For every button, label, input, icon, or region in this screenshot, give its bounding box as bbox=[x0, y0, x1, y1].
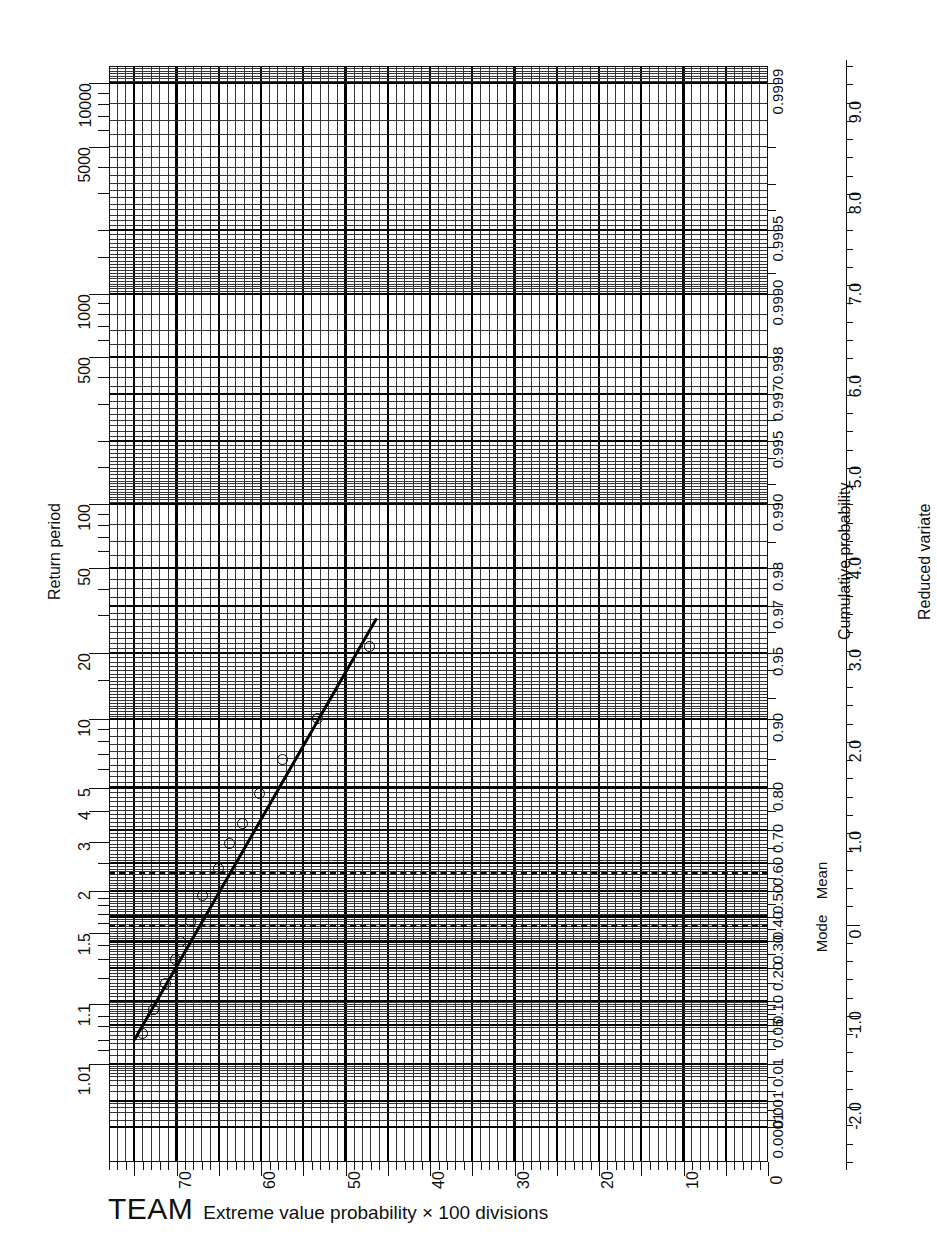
return-period-minor-tick bbox=[98, 377, 109, 378]
probability-minor-tick bbox=[768, 484, 776, 485]
caption: TEAM Extreme value probability × 100 div… bbox=[108, 1192, 548, 1226]
data-point bbox=[224, 838, 235, 849]
x-axis-tick bbox=[624, 1162, 625, 1170]
x-axis-tick bbox=[675, 1162, 676, 1170]
data-point bbox=[197, 890, 208, 901]
return-period-tick-label: 100 bbox=[76, 504, 94, 531]
probability-tick-label: 0.995 bbox=[769, 431, 786, 469]
probability-minor-tick bbox=[768, 210, 776, 211]
x-axis-tick bbox=[506, 1162, 507, 1170]
data-point bbox=[312, 713, 323, 724]
reduced-variate-minor-tick bbox=[846, 705, 853, 706]
reduced-variate-tick-label: 3.0 bbox=[847, 648, 865, 670]
data-point bbox=[175, 936, 186, 947]
x-axis-tick bbox=[658, 1162, 659, 1170]
data-point bbox=[277, 754, 288, 765]
reduced-variate-minor-tick bbox=[846, 450, 853, 451]
reduced-variate-minor-tick bbox=[846, 523, 853, 524]
x-axis-tick bbox=[565, 1162, 566, 1170]
return-period-minor-tick bbox=[98, 116, 109, 117]
x-axis-tick bbox=[210, 1162, 211, 1170]
reduced-variate-minor-tick bbox=[846, 724, 853, 725]
return-period-tick-label: 500 bbox=[76, 357, 94, 384]
x-axis-tick bbox=[405, 1162, 406, 1170]
reduced-variate-axis: -2.0-1.001.02.03.04.05.06.07.08.09.0 bbox=[846, 60, 886, 1170]
reduced-variate-minor-tick bbox=[846, 778, 853, 779]
x-axis-tick bbox=[109, 1162, 110, 1170]
return-period-minor-tick bbox=[98, 230, 109, 231]
reduced-variate-tick-label: 6.0 bbox=[847, 374, 865, 396]
reduced-variate-minor-tick bbox=[846, 358, 853, 359]
x-axis-tick bbox=[582, 1162, 583, 1170]
probability-tick-label: 0.01 bbox=[769, 1058, 786, 1087]
return-period-minor-tick bbox=[98, 93, 109, 94]
x-axis-tick bbox=[650, 1162, 651, 1170]
x-axis-tick bbox=[557, 1162, 558, 1176]
x-axis-tick bbox=[219, 1162, 220, 1176]
reduced-variate-minor-tick bbox=[846, 888, 853, 889]
x-axis-tick bbox=[455, 1162, 456, 1170]
x-axis-tick bbox=[574, 1162, 575, 1170]
probability-minor-tick bbox=[768, 698, 776, 699]
x-axis-tick bbox=[270, 1162, 271, 1170]
reduced-variate-tick-label: 7.0 bbox=[847, 283, 865, 305]
probability-tick-label: 0.9999 bbox=[769, 69, 786, 115]
x-axis-tick-label: 0 bbox=[768, 1176, 786, 1185]
x-axis-tick-label: 60 bbox=[261, 1171, 279, 1189]
return-period-minor-tick bbox=[98, 1016, 109, 1017]
return-period-minor-tick bbox=[98, 193, 109, 194]
return-period-minor-tick bbox=[98, 754, 109, 755]
return-period-minor-tick bbox=[98, 905, 109, 906]
reduced-variate-minor-tick bbox=[846, 176, 853, 177]
reduced-variate-minor-tick bbox=[846, 1071, 853, 1072]
data-point bbox=[137, 1028, 148, 1039]
return-period-minor-tick bbox=[98, 326, 109, 327]
x-axis-tick bbox=[591, 1162, 592, 1170]
reduced-variate-tick bbox=[846, 925, 860, 926]
return-period-axis-title: Return period bbox=[46, 503, 64, 600]
x-axis-tick bbox=[295, 1162, 296, 1170]
x-axis-tick bbox=[396, 1162, 397, 1170]
reduced-variate-minor-tick bbox=[846, 614, 853, 615]
x-axis-tick bbox=[768, 1162, 769, 1176]
x-axis-tick bbox=[312, 1162, 313, 1170]
reduced-variate-minor-tick bbox=[846, 340, 853, 341]
return-period-minor-tick bbox=[98, 404, 109, 405]
return-period-tick-label: 1.01 bbox=[76, 1064, 94, 1095]
reduced-variate-minor-tick bbox=[846, 961, 853, 962]
probability-tick-label: 0.80 bbox=[769, 781, 786, 810]
return-period-tick-label: 10 bbox=[76, 719, 94, 737]
return-period-tick-label: 5000 bbox=[76, 147, 94, 183]
x-axis-tick bbox=[447, 1162, 448, 1170]
probability-tick-label: 0.20 bbox=[769, 962, 786, 991]
x-axis-tick bbox=[743, 1162, 744, 1170]
x-axis-tick bbox=[692, 1162, 693, 1170]
x-axis-tick bbox=[160, 1162, 161, 1170]
x-axis-tick bbox=[413, 1162, 414, 1170]
x-axis-tick bbox=[143, 1162, 144, 1170]
x-axis-tick bbox=[709, 1162, 710, 1170]
x-axis-tick bbox=[253, 1162, 254, 1170]
cumulative-probability-axis: 0.00010.0010.010.050.100.200.300.400.500… bbox=[768, 66, 830, 1162]
return-period-axis: 1.011.11.523451020501005001000500010000 bbox=[0, 66, 109, 1162]
reduced-variate-tick-label: 9.0 bbox=[847, 100, 865, 122]
return-period-minor-tick bbox=[98, 863, 109, 864]
x-axis-tick bbox=[117, 1162, 118, 1170]
x-axis-tick bbox=[607, 1162, 608, 1170]
x-axis-tick-label: 50 bbox=[346, 1171, 364, 1189]
x-axis-tick bbox=[760, 1162, 761, 1170]
return-period-minor-tick bbox=[98, 551, 109, 552]
data-point bbox=[254, 788, 265, 799]
x-axis-tick bbox=[439, 1162, 440, 1170]
return-period-minor-tick bbox=[98, 257, 109, 258]
probability-minor-tick bbox=[768, 542, 776, 543]
reduced-variate-minor-tick bbox=[846, 870, 853, 871]
x-axis-tick bbox=[227, 1162, 228, 1170]
gumbel-fit-line bbox=[133, 618, 378, 1041]
return-period-minor-tick bbox=[98, 615, 109, 616]
x-axis-tick bbox=[700, 1162, 701, 1170]
reduced-variate-tick-label: -1.0 bbox=[847, 1011, 865, 1039]
probability-minor-tick bbox=[768, 147, 776, 148]
x-axis-tick bbox=[726, 1162, 727, 1176]
x-axis-tick bbox=[540, 1162, 541, 1170]
